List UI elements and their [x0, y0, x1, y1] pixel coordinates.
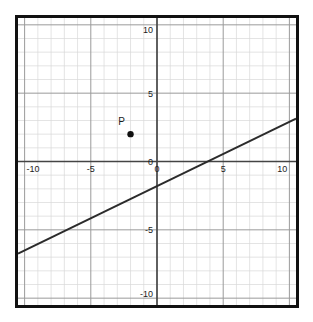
- y-tick-label: 10: [143, 25, 153, 35]
- y-tick-label: -10: [140, 289, 153, 299]
- x-tick-label: 5: [221, 164, 226, 174]
- x-tick-label: -5: [87, 164, 95, 174]
- x-tick-label: 10: [277, 164, 287, 174]
- coordinate-plane-graph: -10-50510 1050-5-10 P: [0, 0, 313, 322]
- y-tick-label: -5: [145, 225, 153, 235]
- y-tick-label: 0: [148, 157, 153, 167]
- y-tick-label: 5: [148, 89, 153, 99]
- graph-canvas: -10-50510 1050-5-10 P: [0, 0, 313, 322]
- data-point-label: P: [118, 116, 125, 127]
- x-tick-label: 0: [154, 164, 159, 174]
- data-point-marker: [127, 131, 133, 137]
- x-tick-label: -10: [27, 164, 40, 174]
